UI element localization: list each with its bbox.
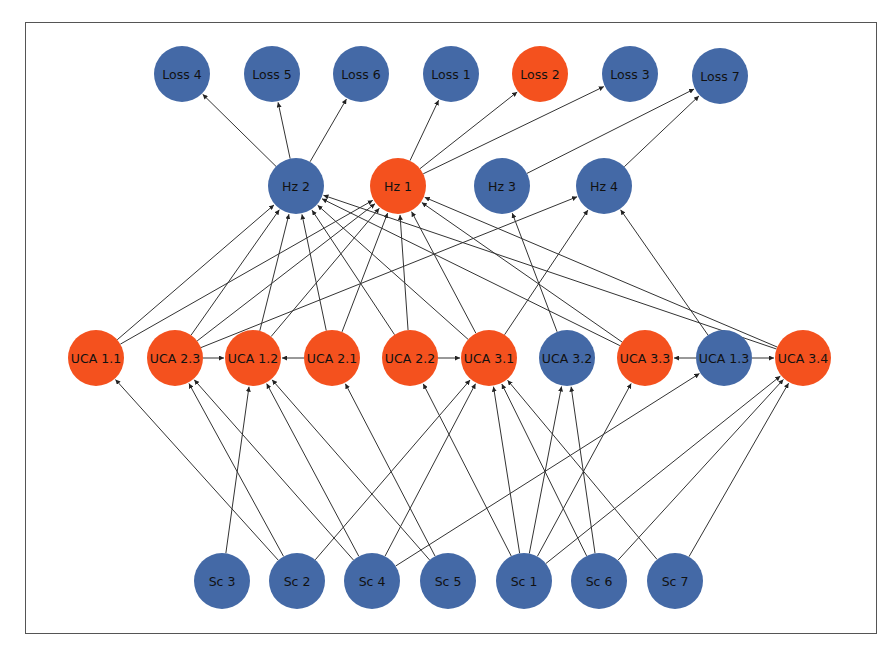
node-hz-3: Hz 3 [474, 158, 530, 214]
edge-arrow [505, 210, 588, 335]
edge-arrow [302, 214, 326, 330]
edge-arrow [191, 210, 279, 335]
edge-arrow [618, 379, 784, 560]
node-sc-5: Sc 5 [420, 553, 476, 609]
node-label: UCA 3.4 [778, 351, 828, 366]
node-label: Loss 7 [700, 69, 739, 84]
node-label: Hz 3 [488, 179, 516, 194]
node-hz-1: Hz 1 [370, 158, 426, 214]
node-uca-2-1: UCA 2.1 [304, 330, 360, 386]
edge-arrow [203, 94, 276, 166]
node-label: UCA 1.2 [228, 351, 278, 366]
node-label: Sc 4 [359, 574, 386, 589]
node-label: UCA 2.2 [385, 351, 435, 366]
node-uca-1-3: UCA 1.3 [696, 330, 752, 386]
node-sc-3: Sc 3 [194, 553, 250, 609]
edge-arrow [624, 96, 699, 167]
node-loss-7: Loss 7 [692, 48, 748, 104]
node-label: UCA 3.3 [620, 351, 670, 366]
nodes-layer: Loss 4Loss 5Loss 6Loss 1Loss 2Loss 3Loss… [68, 46, 831, 609]
node-loss-1: Loss 1 [423, 46, 479, 102]
node-loss-4: Loss 4 [154, 46, 210, 102]
edge-arrow [120, 200, 372, 344]
node-sc-4: Sc 4 [344, 553, 400, 609]
node-uca-1-1: UCA 1.1 [68, 330, 124, 386]
node-uca-3-1: UCA 3.1 [461, 330, 517, 386]
node-label: Sc 7 [662, 574, 689, 589]
edge-arrow [422, 203, 622, 342]
edge-arrow [410, 100, 439, 160]
edges-layer [115, 87, 788, 566]
edge-arrow [318, 205, 468, 339]
edge-arrow [189, 383, 284, 556]
edge-arrow [571, 387, 595, 554]
edge-arrow [400, 215, 408, 330]
node-label: Loss 4 [162, 67, 201, 82]
node-label: UCA 2.1 [307, 351, 357, 366]
node-loss-5: Loss 5 [244, 46, 300, 102]
edge-arrow [621, 210, 708, 335]
edge-arrow [537, 383, 631, 556]
node-label: UCA 1.3 [699, 351, 749, 366]
node-label: Sc 2 [284, 574, 311, 589]
edge-arrow [412, 212, 476, 334]
edge-arrow [272, 380, 429, 560]
edge-arrow [278, 102, 290, 158]
edge-arrow [226, 387, 249, 554]
node-label: Sc 3 [209, 574, 236, 589]
node-label: Loss 6 [341, 67, 380, 82]
edge-arrow [310, 99, 346, 162]
node-label: Loss 1 [431, 67, 470, 82]
edge-arrow [115, 380, 278, 561]
node-label: Hz 2 [282, 179, 310, 194]
node-uca-2-2: UCA 2.2 [382, 330, 438, 386]
edge-arrow [508, 380, 657, 559]
node-label: Sc 1 [511, 574, 538, 589]
node-sc-1: Sc 1 [496, 553, 552, 609]
node-label: UCA 3.2 [542, 351, 592, 366]
edge-arrow [425, 197, 778, 347]
edge-arrow [267, 384, 359, 557]
edge-arrow [315, 380, 470, 560]
edge-arrow [502, 384, 587, 556]
node-uca-3-3: UCA 3.3 [617, 330, 673, 386]
node-sc-6: Sc 6 [571, 553, 627, 609]
node-label: UCA 2.3 [150, 351, 200, 366]
node-uca-1-2: UCA 1.2 [225, 330, 281, 386]
node-sc-2: Sc 2 [269, 553, 325, 609]
node-uca-2-3: UCA 2.3 [147, 330, 203, 386]
node-label: UCA 3.1 [464, 351, 514, 366]
node-hz-2: Hz 2 [268, 158, 324, 214]
node-loss-3: Loss 3 [602, 46, 658, 102]
node-label: Sc 6 [586, 574, 613, 589]
node-uca-3-2: UCA 3.2 [539, 330, 595, 386]
edge-arrow [385, 384, 476, 557]
node-label: Hz 1 [384, 179, 412, 194]
edge-arrow [345, 384, 435, 556]
edge-arrow [423, 384, 511, 556]
edge-arrow [117, 205, 274, 340]
edge-arrow [323, 195, 776, 349]
node-label: Hz 4 [590, 179, 618, 194]
edge-arrow [194, 380, 353, 560]
node-label: Loss 5 [252, 67, 291, 82]
node-hz-4: Hz 4 [576, 158, 632, 214]
node-label: UCA 1.1 [71, 351, 121, 366]
node-uca-3-4: UCA 3.4 [775, 330, 831, 386]
node-label: Loss 3 [610, 67, 649, 82]
node-label: Loss 2 [520, 67, 559, 82]
causal-graph: Loss 4Loss 5Loss 6Loss 1Loss 2Loss 3Loss… [0, 0, 894, 651]
node-sc-7: Sc 7 [647, 553, 703, 609]
edge-arrow [420, 92, 517, 169]
node-loss-6: Loss 6 [333, 46, 389, 102]
edge-arrow [546, 376, 780, 563]
node-loss-2: Loss 2 [512, 46, 568, 102]
node-label: Sc 5 [435, 574, 462, 589]
